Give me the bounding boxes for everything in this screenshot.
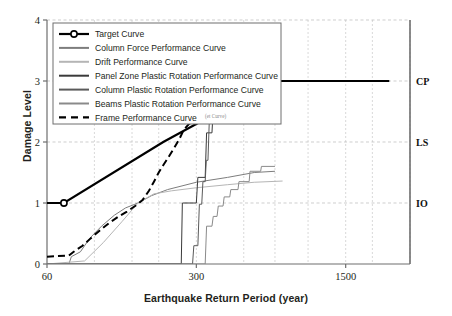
legend-layer: Target CurveColumn Force Performance Cur… bbox=[53, 23, 281, 124]
performance-level-label: IO bbox=[416, 198, 428, 209]
y-axis-title: Damage Level bbox=[21, 66, 33, 186]
legend-label: Target Curve bbox=[95, 29, 144, 39]
legend-label: Drift Performance Curve bbox=[95, 57, 188, 67]
legend-label: Panel Zone Plastic Rotation Performance … bbox=[95, 71, 278, 81]
overlap-artifact-text: (et Curve) bbox=[205, 113, 226, 120]
series-line bbox=[47, 181, 283, 264]
performance-level-label: CP bbox=[416, 76, 429, 87]
performance-level-label: LS bbox=[416, 137, 429, 148]
legend-label: Column Force Performance Curve bbox=[95, 43, 226, 53]
x-tick-label: 60 bbox=[42, 271, 53, 282]
y-tick-label: 1 bbox=[35, 198, 40, 209]
legend-label: Frame Performance Curve bbox=[95, 113, 197, 123]
x-tick-label: 1500 bbox=[335, 271, 356, 282]
x-tick-label: 300 bbox=[188, 271, 204, 282]
y-tick-label: 4 bbox=[35, 15, 41, 26]
legend-marker bbox=[71, 31, 77, 37]
y-tick-label: 3 bbox=[35, 76, 40, 87]
legend-label: Beams Plastic Rotation Performance Curve bbox=[95, 99, 261, 109]
right-label-layer: CPLSIO bbox=[416, 76, 429, 209]
series-line bbox=[47, 171, 275, 264]
y-tick-label: 0 bbox=[35, 259, 40, 270]
legend-label: Column Plastic Rotation Performance Curv… bbox=[95, 85, 264, 95]
x-axis-title: Earthquake Return Period (year) bbox=[0, 292, 452, 304]
y-tick-label: 2 bbox=[35, 137, 40, 148]
chart-svg: 01234603001500 CPLSIO Target CurveColumn… bbox=[0, 0, 452, 316]
damage-level-chart: 01234603001500 CPLSIO Target CurveColumn… bbox=[0, 0, 452, 316]
series-marker bbox=[61, 200, 67, 206]
series-line bbox=[47, 166, 275, 264]
